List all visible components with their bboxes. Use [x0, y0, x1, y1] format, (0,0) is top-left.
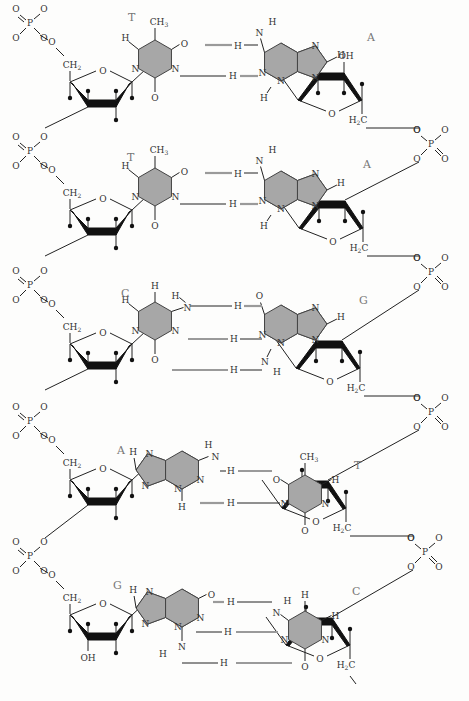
dna-structure-svg: POOOOOCH2​OPOOOOOCH2​OPOOOOOCH2​OPOOOOOC…: [0, 0, 469, 701]
methyl-group: CH3​: [150, 17, 169, 28]
bond-line: [34, 561, 40, 567]
ring-wedge-front: [88, 362, 116, 369]
n3-atom: N: [172, 64, 180, 74]
phosphorus-atom: P: [428, 407, 434, 417]
oxygen-atom: O: [441, 393, 448, 403]
base-label-G-2: G: [113, 579, 122, 592]
oxygen-atom: O: [435, 533, 442, 543]
c5-methylene-label: CH2​: [63, 322, 82, 333]
bond-line: [415, 557, 421, 563]
hydrogen-atom: H: [172, 291, 180, 301]
n1-atom: N: [322, 499, 330, 509]
bond-line: [34, 156, 40, 162]
bond-line: [281, 480, 289, 485]
hydrogen-dot: [68, 224, 72, 228]
left-sugar-4: O: [68, 464, 134, 520]
hydrogen-dot: [304, 605, 308, 609]
hydrogen-atom: H: [229, 71, 237, 81]
bond-line: [134, 596, 136, 608]
phosphorus-atom: P: [27, 146, 33, 156]
oxygen-atom: O: [441, 282, 448, 292]
hydrogen-atom: H: [337, 178, 345, 188]
base-label-T-3: T: [354, 459, 362, 472]
phosphorus-atom: P: [27, 551, 33, 561]
hydrogen-dot: [340, 359, 344, 363]
carbonyl-oxygen: O: [151, 93, 158, 103]
bond-line: [421, 149, 427, 155]
hydrogen-dot: [114, 622, 118, 626]
hydrogen-dot: [358, 350, 362, 354]
methyl-group: CH3​: [150, 145, 169, 156]
bond-line: [34, 290, 40, 296]
bond-line: [327, 185, 337, 190]
c5-methylene-label: H2​C: [347, 383, 366, 394]
hydrogen-atom: H: [122, 33, 130, 43]
ring-oxygen: O: [99, 328, 106, 338]
carbonyl-oxygen: O: [151, 221, 158, 231]
hydrogen-atom: H: [301, 590, 309, 600]
hydrogen-atom: H: [234, 41, 242, 51]
bond-line: [261, 39, 265, 53]
right-phosphate-4: POOOO: [407, 533, 442, 572]
ring-oxygen: O: [328, 109, 335, 119]
hydrogen-atom: H: [332, 475, 340, 485]
adenine-left: NNHNNHNH: [129, 440, 219, 513]
hydrogen-dot: [114, 516, 118, 520]
oxygen-atom: O: [12, 266, 19, 276]
hydrogen-dot: [130, 494, 134, 498]
oxygen-atom: O: [12, 33, 19, 43]
bond-line: [429, 543, 435, 548]
carbonyl-oxygen: O: [301, 526, 308, 536]
bond-line: [198, 457, 208, 461]
base-label-A-1: A: [366, 31, 376, 44]
hydrogen-atom: H: [269, 17, 277, 27]
n1-atom: N: [132, 64, 140, 74]
hydrogen-atom: H: [230, 334, 238, 344]
ring-wedge-right: [116, 344, 132, 369]
n3-atom: N: [277, 76, 285, 86]
n9-atom: N: [312, 73, 320, 83]
left-sugar-1: O: [68, 66, 134, 122]
c5-methylene-label: CH2​: [63, 458, 82, 469]
n1-atom: N: [132, 192, 140, 202]
hydrogen-atom: H: [151, 281, 159, 291]
amino-nitrogen: N: [184, 303, 192, 313]
bond-line: [340, 228, 363, 239]
right-sugar-3: OH2​C: [296, 328, 365, 394]
n1-atom: N: [197, 475, 205, 485]
bond-line: [20, 28, 26, 34]
bond-line: [327, 645, 350, 656]
hydrogen-atom: H: [260, 93, 268, 103]
hydrogen-dot: [361, 210, 365, 214]
bond-line: [56, 176, 64, 184]
n3-atom: N: [172, 326, 180, 336]
hydrogen-atom: H: [205, 440, 213, 450]
phosphodiester-bond: [332, 570, 413, 617]
bond-line: [339, 100, 362, 111]
ring-oxygen: O: [99, 464, 106, 474]
hydrogen-dot: [130, 629, 134, 633]
hydrogen-dot: [314, 359, 318, 363]
bond-line: [110, 199, 132, 210]
hydrogen-atom: H: [220, 658, 228, 668]
bond-line: [129, 304, 139, 312]
bond-line: [70, 604, 96, 615]
ring-oxygen: O: [99, 194, 106, 204]
n1-atom: N: [259, 68, 267, 78]
ring-wedge-left: [70, 480, 88, 505]
phosphodiester-bond: [45, 107, 88, 128]
hydrogen-atom: H: [234, 169, 242, 179]
bond-line: [421, 136, 427, 141]
ring-wedge-front: [316, 341, 342, 348]
hydrogen-atom: H: [230, 365, 238, 375]
base-label-C: C: [121, 287, 129, 300]
oxygen-atom: O: [413, 422, 420, 432]
n3-atom: N: [281, 635, 289, 645]
base-label-T-1: T: [128, 11, 136, 24]
hydrogen-atom: H: [227, 498, 235, 508]
bond-line: [323, 508, 346, 519]
oxygen-atom: O: [40, 132, 47, 142]
bond-line: [34, 14, 40, 19]
bond-line: [337, 368, 360, 379]
phosphorus-atom: P: [422, 547, 428, 557]
